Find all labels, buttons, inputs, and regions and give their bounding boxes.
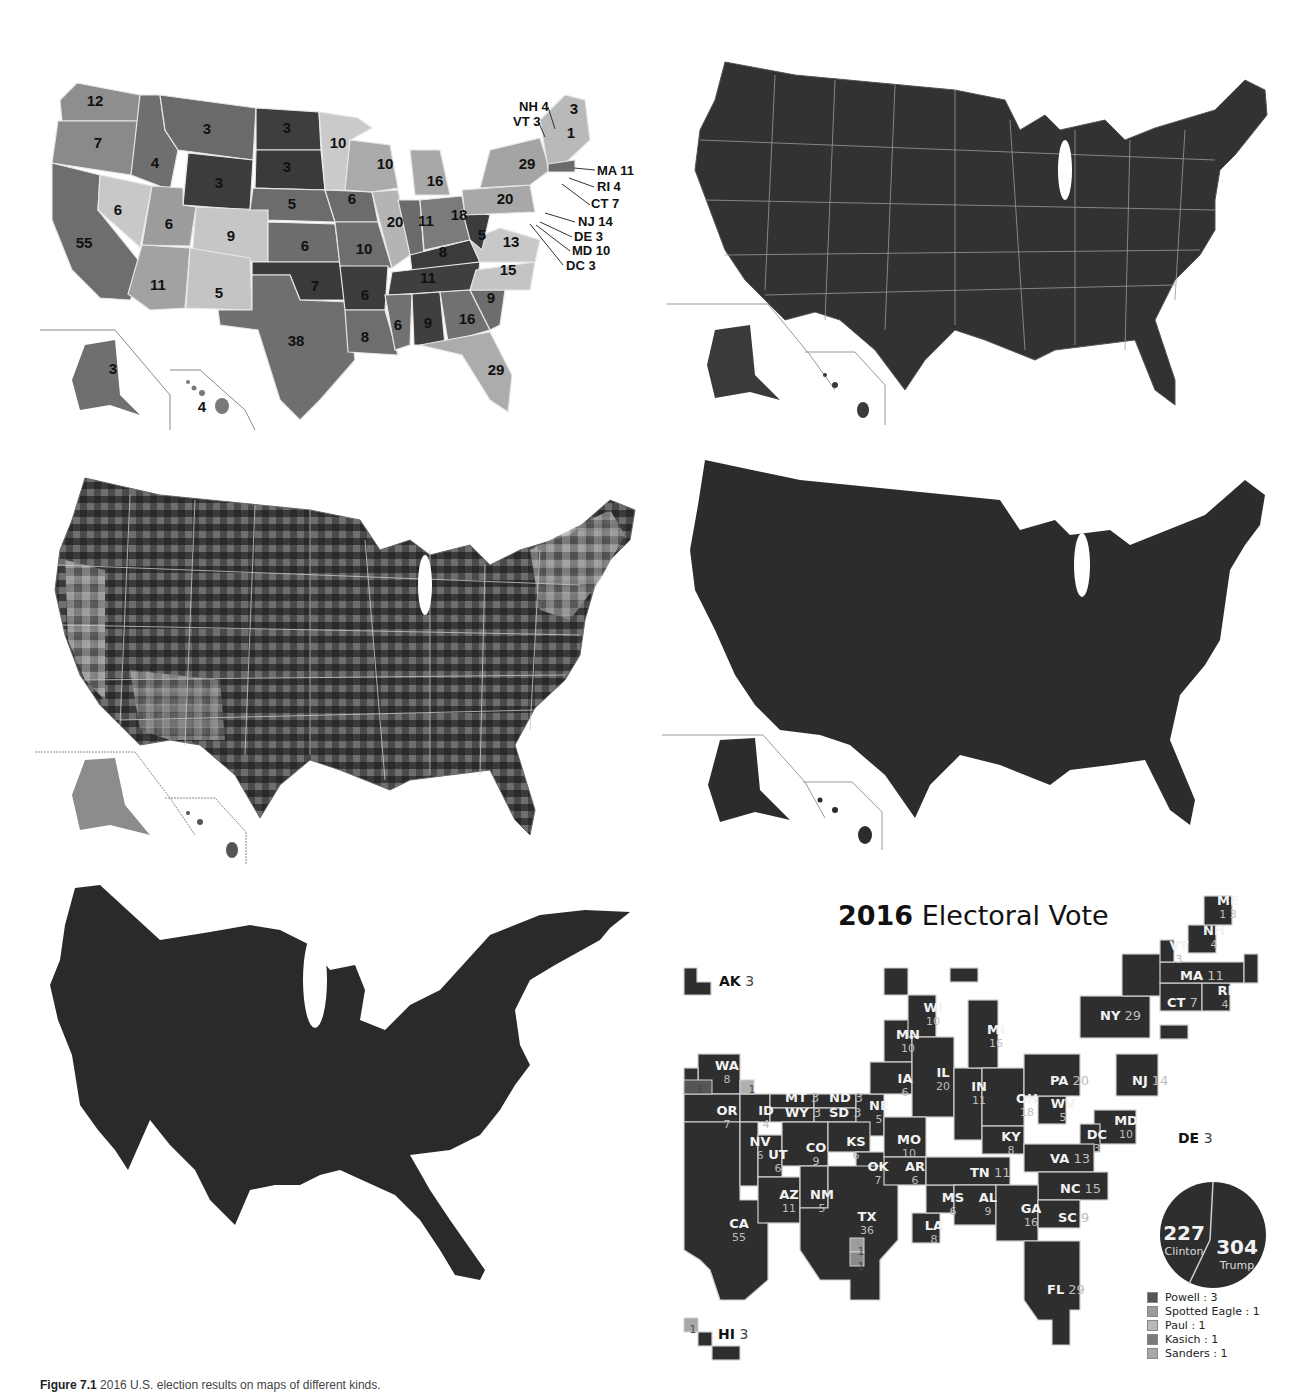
electoral-vote-label: 3: [570, 100, 578, 117]
state-map-svg: 1274333310101666956201118202955610851311…: [0, 0, 650, 440]
tile-state-abbr: WA: [715, 1058, 739, 1073]
faithless-elector-legend: Powell : 3Spotted Eagle : 1Paul : 1Kasic…: [1147, 1290, 1260, 1360]
tile-or: [684, 1094, 740, 1122]
contiguous-us-shape: [690, 460, 1265, 825]
tile-vote-count: 5: [819, 1202, 826, 1215]
electoral-vote-label: 5: [215, 284, 223, 301]
tile-me: [1204, 896, 1232, 925]
tile-vote-count: 55: [732, 1231, 746, 1244]
tile-hi-2: [712, 1346, 740, 1360]
legend-item: Spotted Eagle : 1: [1147, 1304, 1260, 1318]
county-map-svg: [655, 20, 1295, 440]
electoral-vote-label: 9: [227, 227, 235, 244]
tile-la: [912, 1213, 940, 1243]
tile-ia: [870, 1062, 912, 1094]
tile-sd: [814, 1108, 856, 1122]
hawaii-shape: [186, 811, 238, 858]
legend-item: Sanders : 1: [1147, 1346, 1260, 1360]
state-callout-label: NH 4: [519, 99, 549, 114]
tile-ut: [758, 1135, 782, 1177]
tile-state-abbr: IA: [898, 1071, 913, 1086]
tile-ms: [926, 1185, 954, 1213]
tile-vote-count: 36: [860, 1224, 874, 1237]
tile-nm: [800, 1166, 828, 1208]
tile-al: [954, 1185, 996, 1225]
tile-vote-count: 6: [902, 1086, 909, 1099]
tile-state-abbr: WI: [923, 1000, 942, 1015]
state-callout-label: CT 7: [591, 196, 619, 211]
tile-state-abbr: AR: [905, 1159, 925, 1174]
tile-wi: [908, 995, 936, 1037]
electoral-vote-label: 38: [288, 332, 305, 349]
tile-ma-ext: [1244, 954, 1258, 983]
legend-label: Kasich : 1: [1165, 1333, 1218, 1346]
electoral-vote-label: 8: [439, 243, 447, 260]
faithless-tile-value: 3: [697, 1084, 703, 1095]
tile-nv: [740, 1122, 758, 1186]
tile-state-abbr: VT: [1170, 938, 1189, 953]
tile-vote-count: 5: [1060, 1111, 1067, 1124]
state-ak: [72, 340, 140, 415]
cartogram-svg: [10, 870, 650, 1350]
tile-vote-count: 4: [1222, 998, 1229, 1011]
tile-state-abbr: MI: [987, 1022, 1005, 1037]
tile-ma: [1160, 962, 1244, 983]
tile-az: [758, 1177, 800, 1223]
external-state-label: AK 3: [719, 973, 754, 989]
legend-label: Sanders : 1: [1165, 1347, 1227, 1360]
electoral-pie-chart: 227 Clinton 304 Trump: [1160, 1182, 1266, 1288]
tile-vote-count: 10: [926, 1015, 940, 1028]
county-shaded-svg: [10, 440, 650, 870]
legend-item: Kasich : 1: [1147, 1332, 1260, 1346]
tile-state-abbr: AZ: [779, 1187, 799, 1202]
contiguous-us-shape: [695, 62, 1267, 405]
tile-sc: [1038, 1200, 1080, 1228]
tile-state-abbr: DC: [1087, 1127, 1107, 1142]
tile-wy: [770, 1108, 814, 1122]
tile-vote-count: 6: [775, 1162, 782, 1175]
legend-item: Paul : 1: [1147, 1318, 1260, 1332]
faithless-tile-value: 1: [749, 1084, 755, 1095]
west-coast-light-region: [65, 560, 105, 700]
tile-mt: [770, 1094, 814, 1108]
tile-dc: [1080, 1124, 1100, 1152]
electoral-vote-label: 8: [361, 328, 369, 345]
external-state-label: HI 3: [718, 1326, 748, 1342]
tile-state-abbr: AL: [979, 1190, 997, 1205]
tile-state-abbr: ME: [1217, 893, 1239, 908]
tile-label: VA 13: [1050, 1151, 1090, 1166]
trump-label: Trump: [1219, 1259, 1254, 1272]
faithless-tile-value: 1: [858, 1261, 864, 1272]
tile-state-abbr: TX: [858, 1209, 877, 1224]
faithless-tile-value: 1: [690, 1324, 696, 1335]
pie-divider: [1210, 1182, 1213, 1240]
legend-swatch: [1147, 1306, 1158, 1317]
tile-wv: [1038, 1096, 1066, 1124]
electoral-vote-label: 12: [87, 92, 104, 109]
tile-ks: [828, 1122, 870, 1152]
clinton-label: Clinton: [1165, 1245, 1204, 1258]
tile-label: PA 20: [1050, 1073, 1089, 1088]
legend-swatch: [1147, 1292, 1158, 1303]
tile-label: FL 29: [1047, 1282, 1085, 1297]
tile-vote-count: 6: [853, 1149, 860, 1162]
tile-state-abbr: NH: [1203, 923, 1225, 938]
tile-state-abbr: CA: [729, 1216, 749, 1231]
lake-michigan: [418, 555, 432, 615]
external-state-label: DE 3: [1178, 1130, 1213, 1146]
tile-label: MA 11: [1180, 968, 1224, 983]
tile-state-abbr: UT: [768, 1147, 788, 1162]
tile-state-abbr: OK: [867, 1159, 889, 1174]
electoral-vote-label: 3: [215, 174, 223, 191]
contiguous-us-shape: [55, 478, 635, 835]
tile-state-abbr: NV: [750, 1134, 771, 1149]
tile-pa: [1024, 1054, 1080, 1096]
electoral-vote-label: 29: [519, 155, 536, 172]
tile-wa-spotted-eagle: [740, 1080, 754, 1094]
state-callout-label: MD 10: [572, 243, 610, 258]
tile-md: [1094, 1110, 1136, 1144]
state-callout-label: NJ 14: [578, 214, 613, 229]
tile-vote-count: 9: [813, 1155, 820, 1168]
tile-vote-count: 16: [1024, 1216, 1038, 1229]
tile-hi-1: [698, 1332, 712, 1346]
